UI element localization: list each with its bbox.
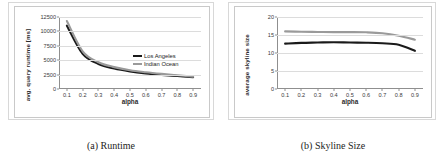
x-tick-mark [414, 89, 415, 91]
y-tick-mark [275, 17, 277, 18]
legend-line-icon [133, 55, 142, 57]
legend-line-icon [133, 63, 142, 65]
y-tick-mark [275, 89, 277, 90]
y-tick-mark [57, 89, 59, 90]
x-tick-mark [177, 89, 178, 91]
x-tick-mark [161, 89, 162, 91]
y-axis-title: avg. query runtime [ms] [21, 9, 33, 121]
series-line [285, 42, 415, 51]
y-tick-label: 15 [268, 32, 274, 38]
y-tick-label: 5 [271, 68, 274, 74]
x-axis-title: alpha [59, 98, 201, 105]
x-tick-mark [130, 89, 131, 91]
x-tick-mark [285, 89, 286, 91]
gridline [59, 17, 201, 18]
y-tick-mark [57, 60, 59, 61]
y-tick-mark [275, 35, 277, 36]
gridline [277, 17, 423, 18]
y-tick-label: 0 [53, 86, 56, 92]
gridline [277, 71, 423, 72]
gridline [59, 46, 201, 47]
legend-item: Los Angeles [133, 53, 178, 59]
gridline [59, 31, 201, 32]
legend-item: Indian Ocean [133, 61, 178, 67]
x-tick-mark [382, 89, 383, 91]
y-tick-label: 10 [268, 50, 274, 56]
figure-caption: (b) Skyline Size [222, 140, 444, 151]
y-tick-label: 0 [271, 86, 274, 92]
y-tick-mark [57, 74, 59, 75]
x-tick-mark [82, 89, 83, 91]
y-tick-mark [57, 45, 59, 46]
figure-caption: (a) Runtime [0, 140, 222, 151]
y-tick-mark [57, 17, 59, 18]
x-tick-mark [350, 89, 351, 91]
y-tick-label: 12500 [40, 14, 56, 20]
chart-legend-runtime: Los AngelesIndian Ocean [133, 53, 178, 69]
gridline [277, 53, 423, 54]
plot-area-skyline-size: 051015200.10.20.30.40.50.60.70.80.9 [277, 17, 423, 89]
x-tick-mark [98, 89, 99, 91]
chart-panel-skyline-size: average skyline size 051015200.10.20.30.… [234, 6, 432, 118]
y-tick-label: 2500 [44, 72, 56, 78]
x-tick-mark [333, 89, 334, 91]
y-tick-label: 10000 [40, 28, 56, 34]
plot-area-runtime: 025005000750010000125000.10.20.30.40.50.… [59, 17, 201, 89]
x-tick-mark [398, 89, 399, 91]
x-tick-mark [301, 89, 302, 91]
legend-label: Indian Ocean [144, 61, 178, 67]
x-tick-mark [114, 89, 115, 91]
figure-runtime: avg. query runtime [ms] 0250050007500100… [0, 0, 222, 159]
legend-label: Los Angeles [144, 53, 176, 59]
gridline [277, 35, 423, 36]
y-tick-mark [57, 31, 59, 32]
gridline [59, 75, 201, 76]
chart-panel-runtime: avg. query runtime [ms] 0250050007500100… [14, 6, 210, 118]
y-tick-mark [275, 71, 277, 72]
series-curves-runtime [59, 17, 201, 89]
figure-row: avg. query runtime [ms] 0250050007500100… [0, 0, 444, 159]
x-tick-mark [366, 89, 367, 91]
y-tick-label: 5000 [44, 57, 56, 63]
y-tick-mark [275, 53, 277, 54]
x-tick-mark [317, 89, 318, 91]
x-axis-title: alpha [277, 98, 423, 105]
y-axis-title: average skyline size [240, 9, 252, 121]
x-tick-mark [66, 89, 67, 91]
x-tick-mark [145, 89, 146, 91]
gridline [59, 60, 201, 61]
figure-skyline-size: average skyline size 051015200.10.20.30.… [222, 0, 444, 159]
y-tick-label: 20 [268, 14, 274, 20]
y-tick-label: 7500 [44, 43, 56, 49]
x-tick-mark [193, 89, 194, 91]
